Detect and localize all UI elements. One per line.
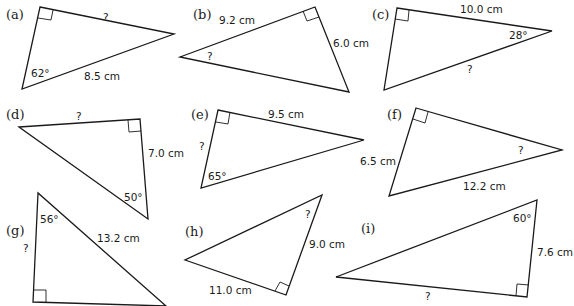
triangle-g-shape	[33, 193, 166, 306]
unknown-g: ?	[23, 242, 29, 254]
label-h: (h)	[185, 224, 204, 239]
side-i: 7.6 cm	[537, 246, 573, 258]
label-a: (a)	[6, 7, 24, 22]
angle-e: 65°	[208, 170, 227, 182]
triangle-e: (e) 9.5 cm ? 65°	[191, 107, 364, 188]
angle-i: 60°	[513, 212, 532, 224]
right-angle-marker	[413, 112, 428, 123]
triangle-d-shape	[19, 119, 148, 219]
triangle-exercise-diagram: (a) ? 62° 8.5 cm (b) 9.2 cm 6.0 cm ? (c)…	[0, 0, 574, 306]
triangle-h-shape	[185, 195, 322, 295]
triangle-c: (c) 10.0 cm 28° ?	[372, 3, 552, 90]
angle-d: 50°	[124, 191, 143, 203]
triangle-h: (h) ? 9.0 cm 11.0 cm	[185, 195, 345, 296]
right-angle-marker	[275, 282, 289, 291]
triangle-i-shape	[336, 200, 537, 297]
label-g: (g)	[6, 223, 24, 238]
unknown-c: ?	[467, 63, 473, 75]
triangle-c-shape	[384, 8, 552, 90]
label-i: (i)	[361, 221, 375, 236]
right-angle-marker	[395, 10, 409, 21]
label-f: (f)	[387, 107, 402, 122]
side-d: 7.0 cm	[148, 147, 184, 159]
unknown-i: ?	[425, 290, 431, 302]
side2-b: 6.0 cm	[333, 37, 369, 49]
triangle-i: (i) 60° 7.6 cm ?	[336, 200, 573, 302]
side-e: 9.5 cm	[268, 108, 304, 120]
side-f: 6.5 cm	[360, 155, 396, 167]
unknown-b: ?	[207, 50, 213, 62]
unknown-a: ?	[103, 11, 109, 23]
angle-c: 28°	[509, 29, 528, 41]
label-d: (d)	[6, 107, 24, 122]
triangle-a: (a) ? 62° 8.5 cm	[6, 7, 174, 89]
right-angle-marker	[34, 290, 46, 302]
triangle-g: (g) 56° ? 13.2 cm	[6, 193, 166, 306]
triangle-f: (f) 6.5 cm ? 12.2 cm	[360, 107, 562, 196]
right-angle-marker	[216, 112, 230, 124]
hypotenuse-f: 12.2 cm	[463, 180, 506, 192]
hypotenuse-g: 13.2 cm	[97, 232, 140, 244]
right-angle-marker	[38, 10, 53, 20]
side1-b: 9.2 cm	[219, 14, 255, 26]
hypotenuse-a: 8.5 cm	[84, 70, 120, 82]
angle-a: 62°	[31, 67, 50, 79]
side1-h: 11.0 cm	[209, 284, 252, 296]
side2-h: 9.0 cm	[309, 238, 345, 250]
angle-g: 56°	[40, 213, 59, 225]
label-b: (b)	[193, 7, 211, 22]
unknown-f: ?	[518, 144, 524, 156]
triangle-d: (d) ? 7.0 cm 50°	[6, 107, 184, 219]
unknown-d: ?	[76, 110, 82, 122]
side-c: 10.0 cm	[460, 3, 503, 15]
unknown-h: ?	[305, 208, 311, 220]
triangle-b: (b) 9.2 cm 6.0 cm ?	[180, 7, 369, 92]
unknown-e: ?	[199, 140, 205, 152]
label-c: (c)	[372, 7, 389, 22]
right-angle-marker	[128, 120, 141, 132]
label-e: (e)	[191, 107, 209, 122]
